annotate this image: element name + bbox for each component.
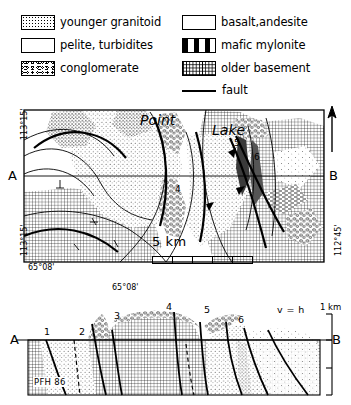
coord-bottom-left-latitude: 65°08' <box>28 263 55 272</box>
map-unit-number-4: 4 <box>175 184 181 194</box>
section-unit-number-2: 2 <box>79 326 85 337</box>
legend-label: younger granitoid <box>60 17 161 29</box>
legend-item-younger-granitoid: younger granitoid <box>21 13 161 32</box>
legend-item-mafic-mylonite: mafic mylonite <box>182 36 305 55</box>
legend-label: mafic mylonite <box>221 40 305 52</box>
younger-granitoid-swatch-icon <box>21 15 55 30</box>
section-endpoint-a: A <box>10 332 19 347</box>
older-basement-swatch-icon <box>182 61 216 76</box>
vertical-exaggeration-label: v = h <box>277 304 305 315</box>
section-unit-number-4: 4 <box>166 301 172 312</box>
geologic-map-figure: younger granitoid basalt,andesite pelite… <box>0 0 351 405</box>
section-unit-number-3: 3 <box>114 310 120 321</box>
map-legend: younger granitoid basalt,andesite pelite… <box>0 0 351 96</box>
north-arrow-icon <box>328 106 336 152</box>
section-unit-number-6: 6 <box>238 314 244 325</box>
section-unit-number-1: 1 <box>44 326 50 337</box>
pelite-turbidites-swatch-icon <box>21 38 55 53</box>
legend-item-basalt-andesite: basalt,andesite <box>182 13 308 32</box>
section-endpoint-b: B <box>332 332 341 347</box>
map-unit-number-5: 5 <box>234 138 240 148</box>
fault-line-icon <box>182 90 216 92</box>
coord-top-left-longitude: 113°15' <box>20 108 29 140</box>
section-scale-bracket <box>326 314 332 395</box>
legend-label: pelite, turbidites <box>60 40 153 52</box>
coord-right-longitude: 112°45' <box>334 224 343 256</box>
coord-bottom-left-longitude: 113°15' <box>20 224 29 256</box>
map-scale-bar <box>152 256 253 264</box>
legend-label: fault <box>222 85 248 97</box>
map-section-endpoint-a: A <box>8 168 17 183</box>
place-label-lake: Lake <box>212 122 245 138</box>
map-unit-number-6: 6 <box>254 152 260 162</box>
basalt-andesite-swatch-icon <box>182 15 216 30</box>
section-unit-number-5: 5 <box>204 304 210 315</box>
figure-credit: PFH 86 <box>33 377 67 387</box>
section-scale-label: 1 km <box>320 302 341 312</box>
map-panel: Point Lake A B 113°15' 113°15' 112°45' 6… <box>0 96 351 300</box>
legend-item-conglomerate: conglomerate <box>21 59 139 78</box>
legend-label: conglomerate <box>60 63 139 75</box>
cross-section-graphic <box>0 300 351 405</box>
legend-label: older basement <box>221 63 310 75</box>
map-scale-label: 5 km <box>152 234 187 249</box>
legend-item-older-basement: older basement <box>182 59 310 78</box>
legend-item-pelite-turbidites: pelite, turbidites <box>21 36 153 55</box>
conglomerate-swatch-icon <box>21 61 55 76</box>
coord-bottom-center-latitude: 65°08' <box>112 283 139 292</box>
cross-section-panel: A B 1 2 3 4 5 6 v = h 1 km PFH 86 <box>0 300 351 405</box>
legend-label: basalt,andesite <box>221 17 308 29</box>
place-label-point: Point <box>140 112 175 128</box>
mafic-mylonite-swatch-icon <box>182 38 216 53</box>
map-section-endpoint-b: B <box>329 168 338 183</box>
